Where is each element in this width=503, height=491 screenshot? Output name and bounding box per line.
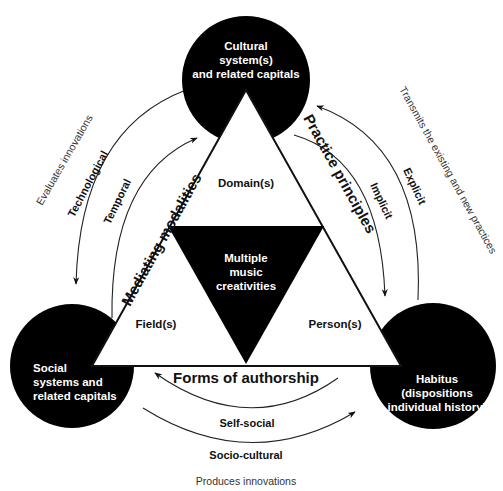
svg-text:creativities: creativities xyxy=(216,280,276,292)
svg-text:and related capitals: and related capitals xyxy=(192,68,299,80)
svg-text:Multiple: Multiple xyxy=(224,252,267,264)
svg-text:system(s): system(s) xyxy=(219,54,273,66)
explicit-label: Explicit xyxy=(401,166,429,207)
svg-text:Cultural: Cultural xyxy=(224,40,267,52)
svg-text:related capitals: related capitals xyxy=(33,390,117,402)
svg-text:music: music xyxy=(229,266,263,278)
svg-text:individual history): individual history) xyxy=(387,401,486,413)
self-social-label: Self-social xyxy=(219,417,274,429)
svg-text:Habitus: Habitus xyxy=(416,373,458,385)
svg-text:Social: Social xyxy=(33,362,67,374)
music-creativities-diagram: Cultural system(s) and related capitals … xyxy=(0,0,503,491)
forms-of-authorship-label: Forms of authorship xyxy=(173,369,319,386)
socio-cultural-label: Socio-cultural xyxy=(209,449,282,461)
produces-innovations-note: Produces innovations xyxy=(196,475,296,487)
svg-text:(dispositions: (dispositions xyxy=(401,387,473,399)
svg-text:systems and: systems and xyxy=(33,376,103,388)
temporal-label: Temporal xyxy=(101,177,133,226)
domains-label: Domain(s) xyxy=(218,177,274,189)
technological-label: Technological xyxy=(65,149,110,219)
fields-label: Field(s) xyxy=(136,318,177,330)
persons-label: Person(s) xyxy=(308,318,361,330)
